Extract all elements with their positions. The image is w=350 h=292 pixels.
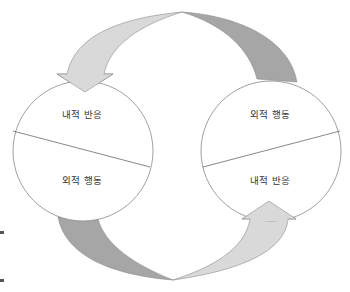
- cycle-diagram: 내적 반응 외적 행동 외적 행동 내적 반응: [0, 0, 350, 292]
- bottom-dark-band: [58, 217, 173, 280]
- top-dark-band: [182, 12, 297, 82]
- edge-mark: [0, 279, 4, 282]
- edge-mark: [0, 231, 4, 234]
- top-arrow-shaft-cover: [68, 72, 104, 75]
- right-circle-bottom-label: 내적 반응: [250, 175, 289, 186]
- left-circle: 내적 반응 외적 행동: [13, 81, 153, 221]
- right-circle-top-label: 외적 행동: [250, 109, 289, 120]
- left-circle-top-label: 내적 반응: [62, 109, 101, 120]
- bottom-arrow-shaft-cover: [251, 218, 288, 221]
- left-circle-bottom-label: 외적 행동: [62, 175, 101, 186]
- right-circle: 외적 행동 내적 반응: [201, 81, 341, 221]
